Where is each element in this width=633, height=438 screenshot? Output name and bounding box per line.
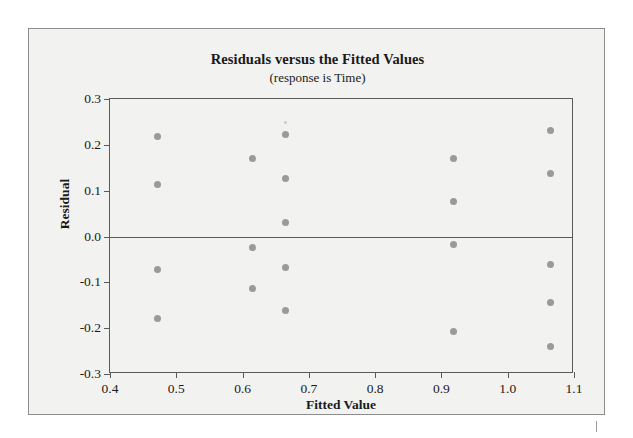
- scatter-point: [282, 307, 289, 314]
- scatter-point: [282, 131, 289, 138]
- x-tick-label: 0.5: [168, 381, 185, 397]
- x-tick-mark: [441, 372, 442, 378]
- y-tick-mark: [104, 145, 110, 146]
- x-tick-mark: [110, 372, 111, 378]
- x-tick-label: 1.0: [499, 381, 516, 397]
- figure-canvas: Residuals versus the Fitted Values (resp…: [0, 0, 633, 438]
- y-tick-label: 0.1: [84, 183, 101, 199]
- scatter-point: [450, 198, 457, 205]
- x-tick-mark: [508, 372, 509, 378]
- x-tick-mark: [574, 372, 575, 378]
- x-tick-label: 1.1: [566, 381, 583, 397]
- scatter-point: [547, 299, 554, 306]
- y-tick-label: -0.2: [80, 320, 101, 336]
- scatter-point: [547, 343, 554, 350]
- scatter-point: [547, 127, 554, 134]
- y-tick-label: 0.3: [84, 91, 101, 107]
- y-tick-label: -0.3: [80, 366, 101, 382]
- scatter-point: [282, 264, 289, 271]
- x-tick-label: 0.4: [102, 381, 119, 397]
- scatter-point: [249, 244, 256, 251]
- scatter-point: [282, 219, 289, 226]
- y-tick-label: 0.2: [84, 137, 101, 153]
- x-axis-label: Fitted Value: [109, 397, 573, 413]
- y-tick-mark: [104, 99, 110, 100]
- x-tick-label: 0.6: [234, 381, 251, 397]
- chart-title: Residuals versus the Fitted Values: [29, 51, 606, 68]
- scatter-point: [450, 241, 457, 248]
- x-tick-label: 0.9: [433, 381, 450, 397]
- plot-outer-frame: Residuals versus the Fitted Values (resp…: [28, 28, 605, 415]
- scatter-point: [547, 261, 554, 268]
- y-tick-label: 0.0: [84, 229, 101, 245]
- x-tick-mark: [375, 372, 376, 378]
- x-tick-label: 0.8: [367, 381, 384, 397]
- scatter-point: [249, 285, 256, 292]
- scatter-point: [154, 266, 161, 273]
- scatter-point: [284, 121, 287, 124]
- scatter-point: [282, 175, 289, 182]
- x-tick-mark: [309, 372, 310, 378]
- scatter-point: [249, 155, 256, 162]
- y-tick-mark: [104, 191, 110, 192]
- scatter-point: [547, 170, 554, 177]
- x-tick-mark: [176, 372, 177, 378]
- y-axis-label: Residual: [57, 179, 73, 229]
- plot-area: 0.30.20.10.0-0.1-0.2-0.3 0.40.50.60.70.8…: [109, 98, 573, 373]
- y-tick-mark: [104, 328, 110, 329]
- zero-reference-line: [110, 237, 572, 238]
- scatter-point: [450, 155, 457, 162]
- corner-tick-mark: [596, 421, 597, 432]
- x-tick-mark: [243, 372, 244, 378]
- y-tick-label: -0.1: [80, 274, 101, 290]
- scatter-point: [154, 181, 161, 188]
- scatter-point: [154, 315, 161, 322]
- y-tick-mark: [104, 237, 110, 238]
- chart-subtitle: (response is Time): [29, 70, 606, 86]
- x-tick-label: 0.7: [300, 381, 317, 397]
- scatter-point: [154, 133, 161, 140]
- scatter-point: [450, 328, 457, 335]
- y-tick-mark: [104, 282, 110, 283]
